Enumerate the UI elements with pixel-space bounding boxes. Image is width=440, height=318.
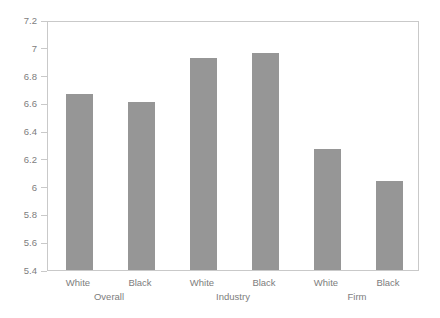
bar-chart: 7.276.86.66.46.265.85.65.4 WhiteBlackWhi… [0, 0, 440, 318]
plot-area [47, 21, 419, 271]
x-axis-tick-label: White [314, 277, 338, 289]
bars-layer [48, 22, 418, 270]
y-axis-tick-label: 6 [0, 182, 37, 194]
y-axis-tick-label: 6.2 [0, 154, 37, 166]
x-axis-tick-label: Black [376, 277, 399, 289]
bar[interactable] [66, 94, 93, 270]
x-axis-tick-label: White [66, 277, 90, 289]
y-axis-tick-label: 6.6 [0, 98, 37, 110]
bar[interactable] [376, 181, 403, 270]
x-axis-group-label: Industry [216, 291, 250, 303]
x-axis-tick-label: White [190, 277, 214, 289]
x-axis-tick-label: Black [128, 277, 151, 289]
y-axis-tick-label: 7 [0, 43, 37, 55]
bar[interactable] [128, 102, 155, 270]
y-axis-tick-label: 6.8 [0, 71, 37, 83]
bar[interactable] [252, 53, 279, 270]
y-axis-tick-label: 5.4 [0, 265, 37, 277]
bar[interactable] [314, 149, 341, 270]
x-axis-group-label: Firm [348, 291, 367, 303]
y-axis-tick-label: 7.2 [0, 15, 37, 27]
y-axis-tick-label: 5.8 [0, 209, 37, 221]
y-axis-tick-label: 6.4 [0, 126, 37, 138]
x-axis-group-label: Overall [94, 291, 124, 303]
bar[interactable] [190, 58, 217, 271]
y-axis-tick-label: 5.6 [0, 237, 37, 249]
x-axis-tick-label: Black [252, 277, 275, 289]
